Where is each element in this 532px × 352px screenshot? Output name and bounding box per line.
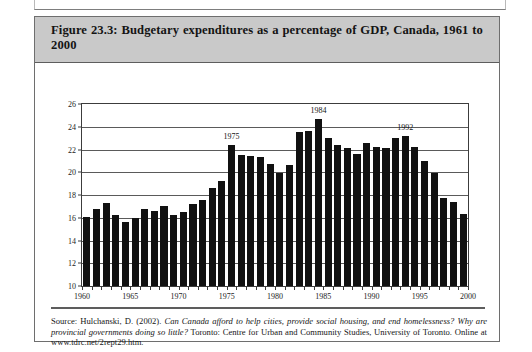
bar [228,145,235,286]
bar [392,138,399,286]
x-tick-mark [188,286,189,290]
x-tick-label: 1975 [219,292,235,301]
bar-chart-plot: 101214161820222426 196019651970197519801… [81,103,469,287]
x-tick-mark [323,286,324,290]
page-top-edge [34,0,506,10]
bar [122,222,129,286]
bar [431,173,438,286]
bar [218,181,225,286]
x-tick-mark [140,286,141,290]
y-tick-label: 14 [68,236,76,245]
x-tick-mark [449,286,450,290]
bar [402,136,409,286]
x-tick-mark [352,286,353,290]
x-tick-mark [381,286,382,290]
y-tick-mark [78,104,82,105]
bar [276,173,283,286]
bar [363,143,370,286]
annotation-label: 1984 [310,106,326,115]
y-tick-mark [78,195,82,196]
x-tick-mark [256,286,257,290]
gridline [82,218,468,219]
gridline [82,150,468,151]
y-tick-label: 20 [68,168,76,177]
bar [160,206,167,286]
x-tick-mark [439,286,440,290]
chart-region: 101214161820222426 196019651970197519801… [35,63,499,303]
x-tick-label: 1980 [267,292,283,301]
bar [305,131,312,286]
y-tick-mark [78,217,82,218]
x-tick-mark [285,286,286,290]
bar [189,204,196,286]
x-tick-mark [198,286,199,290]
x-tick-mark [101,286,102,290]
gridline [82,263,468,264]
x-tick-label: 1970 [171,292,187,301]
x-tick-mark [207,286,208,290]
x-tick-label: 1995 [412,292,428,301]
x-tick-mark [82,286,83,290]
bar [421,161,428,286]
x-tick-mark [372,286,373,290]
y-tick-label: 16 [68,213,76,222]
bar [180,212,187,286]
x-tick-mark [468,286,469,290]
y-tick-label: 22 [68,145,76,154]
bar [170,215,177,286]
y-tick-label: 10 [68,282,76,291]
x-tick-mark [227,286,228,290]
bar [112,215,119,286]
annotation-label: 1992 [397,123,413,132]
x-tick-mark [333,286,334,290]
y-tick-mark [78,149,82,150]
x-tick-mark [217,286,218,290]
x-tick-label: 1990 [364,292,380,301]
x-tick-label: 1985 [315,292,331,301]
bar [199,200,206,286]
bar [267,164,274,286]
y-tick-label: 24 [68,122,76,131]
x-tick-mark [169,286,170,290]
bar [132,218,139,286]
y-tick-mark [78,240,82,241]
x-tick-mark [304,286,305,290]
bar [296,132,303,286]
bar [247,156,254,286]
bar [141,209,148,286]
source-publisher: Toronto: Centre for Urban and Community … [190,327,452,337]
x-tick-mark [420,286,421,290]
source-citation: Source: Hulchanski, D. (2002). Can Canad… [51,316,487,348]
bar [315,119,322,286]
x-tick-mark [159,286,160,290]
source-divider [51,307,485,309]
gridline [82,241,468,242]
bar [460,214,467,286]
x-tick-mark [179,286,180,290]
x-tick-mark [314,286,315,290]
x-tick-mark [458,286,459,290]
x-tick-label: 1965 [122,292,138,301]
bar [209,188,216,286]
bar [411,147,418,286]
bar [334,145,341,286]
figure-container: Figure 23.3: Budgetary expenditures as a… [34,16,500,342]
y-tick-label: 18 [68,191,76,200]
bar [344,148,351,286]
x-tick-label: 2000 [460,292,476,301]
x-tick-mark [121,286,122,290]
y-tick-mark [78,126,82,127]
x-tick-mark [275,286,276,290]
bar [382,148,389,286]
bar [257,157,264,286]
bar [103,203,110,286]
x-tick-mark [236,286,237,290]
bar [353,154,360,286]
bar [373,147,380,286]
x-tick-mark [391,286,392,290]
x-tick-mark [294,286,295,290]
x-tick-mark [343,286,344,290]
annotation-label: 1975 [224,132,240,141]
bar [450,202,457,286]
source-lead: Source: Hulchanski, D. (2002). [51,316,161,326]
